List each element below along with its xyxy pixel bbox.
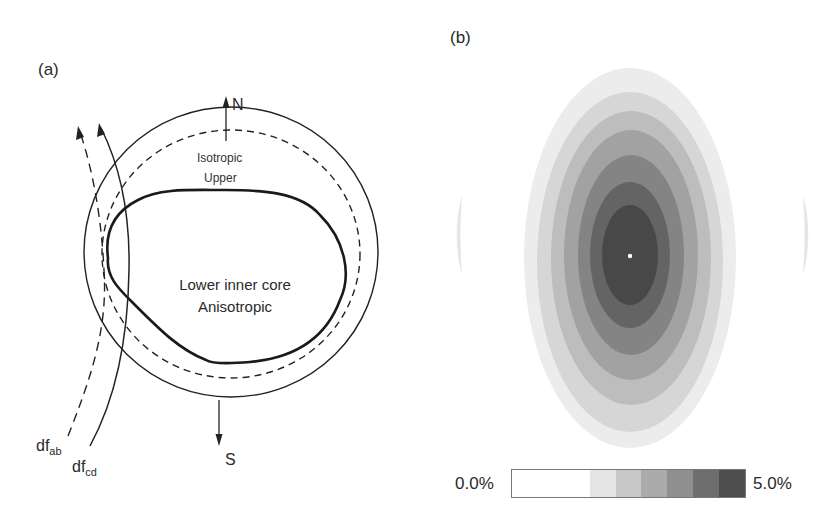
ray-dfab-label: dfab — [36, 437, 62, 457]
panel-a-label: (a) — [38, 60, 59, 80]
colorbar-segment — [693, 470, 719, 497]
south-arrow-icon — [216, 434, 223, 446]
colorbar-min-label: 0.0% — [455, 474, 494, 494]
core-label-line1: Lower inner core — [150, 276, 320, 293]
isotropic-label: Isotropic — [197, 151, 242, 165]
right-edge-sliver — [803, 195, 808, 275]
ray-dfcd-base: df — [72, 458, 85, 475]
panel-b-label: (b) — [450, 28, 471, 48]
ray-dfab-arrow-icon — [76, 126, 84, 140]
colorbar-segment — [616, 470, 642, 497]
colorbar-max-label: 5.0% — [753, 474, 792, 494]
colorbar-segment — [719, 470, 745, 497]
upper-label: Upper — [204, 171, 237, 185]
left-edge-sliver — [457, 195, 462, 275]
core-label-line2: Anisotropic — [150, 298, 320, 315]
north-label: N — [232, 96, 244, 114]
figure-canvas — [0, 0, 840, 515]
panel-b-contour-map — [457, 68, 809, 448]
ray-dfab-base: df — [36, 437, 49, 454]
colorbar — [511, 469, 746, 498]
ray-dfcd-label: dfcd — [72, 458, 97, 478]
ray-dfcd-sub: cd — [85, 466, 97, 478]
ray-dfab-sub: ab — [49, 445, 61, 457]
colorbar-segment — [590, 470, 616, 497]
panel-a-diagram — [68, 96, 378, 446]
colorbar-segment — [641, 470, 667, 497]
ray-dfcd-path — [90, 128, 129, 446]
center-point-marker — [628, 254, 632, 258]
north-arrow-icon — [223, 96, 230, 108]
upper-layer-boundary — [102, 130, 360, 378]
south-label: S — [225, 451, 236, 469]
colorbar-segment — [667, 470, 693, 497]
ray-dfab-path — [68, 132, 105, 436]
colorbar-segment — [512, 470, 590, 497]
